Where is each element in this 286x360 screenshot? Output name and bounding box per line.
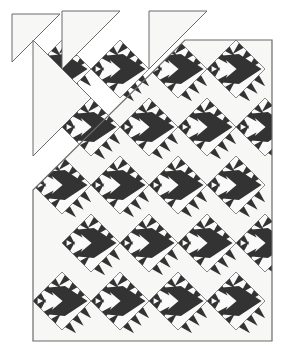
quilt-diagram-stage [0, 0, 286, 360]
quilt-pattern-svg [0, 0, 286, 360]
